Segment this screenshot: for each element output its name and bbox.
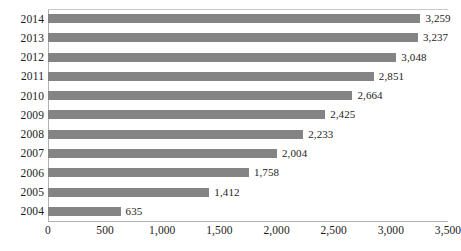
bar-value-label: 3,259	[425, 13, 450, 24]
value-tick-label: 3,000	[378, 224, 404, 236]
category-label: 2008	[0, 125, 44, 144]
bar-value-label: 2,233	[308, 129, 333, 140]
category-label: 2009	[0, 105, 44, 124]
bar-value-label: 2,425	[330, 109, 355, 120]
bar	[48, 130, 303, 139]
value-tick-label: 2,500	[321, 224, 347, 236]
bar	[48, 14, 420, 23]
bar	[48, 188, 209, 197]
bar	[48, 91, 352, 100]
bar-row: 1,412	[48, 182, 448, 201]
category-axis-labels: 2014201320122011201020092008200720062005…	[0, 9, 44, 221]
bar-row: 2,004	[48, 144, 448, 163]
bar-row: 3,237	[48, 28, 448, 47]
bar-value-label: 635	[126, 206, 143, 217]
bar-row: 3,259	[48, 9, 448, 28]
bar-value-label: 2,664	[357, 90, 382, 101]
bar-series: 3,2593,2373,0482,8512,6642,4252,2332,004…	[48, 9, 448, 221]
category-label: 2013	[0, 28, 44, 47]
value-tick-label: 0	[45, 224, 51, 236]
bar	[48, 149, 277, 158]
bar	[48, 33, 418, 42]
category-label: 2010	[0, 86, 44, 105]
bar-row: 2,851	[48, 67, 448, 86]
bar-value-label: 1,758	[254, 167, 279, 178]
bar	[48, 168, 249, 177]
bar-row: 2,664	[48, 86, 448, 105]
bar	[48, 53, 396, 62]
bar-row: 2,233	[48, 125, 448, 144]
bar-value-label: 2,851	[379, 71, 404, 82]
category-label: 2007	[0, 144, 44, 163]
category-label: 2012	[0, 48, 44, 67]
value-tick-label: 1,000	[149, 224, 175, 236]
bar-value-label: 3,237	[423, 32, 448, 43]
bar-row: 2,425	[48, 105, 448, 124]
value-tick-label: 1,500	[206, 224, 232, 236]
bar-value-label: 1,412	[214, 187, 239, 198]
category-label: 2006	[0, 163, 44, 182]
value-axis-ticks: 05001,0001,5002,0002,5003,0003,500	[48, 224, 448, 244]
category-label: 2004	[0, 202, 44, 221]
value-tick-label: 3,500	[435, 224, 461, 236]
bar	[48, 110, 325, 119]
value-tick-label: 2,000	[263, 224, 289, 236]
category-label: 2011	[0, 67, 44, 86]
bar-value-label: 3,048	[401, 52, 426, 63]
bar	[48, 207, 121, 216]
bar-row: 1,758	[48, 163, 448, 182]
bar-row: 635	[48, 202, 448, 221]
bar	[48, 72, 374, 81]
category-label: 2005	[0, 182, 44, 201]
value-tick-label: 500	[96, 224, 114, 236]
category-label: 2014	[0, 9, 44, 28]
bar-value-label: 2,004	[282, 148, 307, 159]
bar-row: 3,048	[48, 48, 448, 67]
